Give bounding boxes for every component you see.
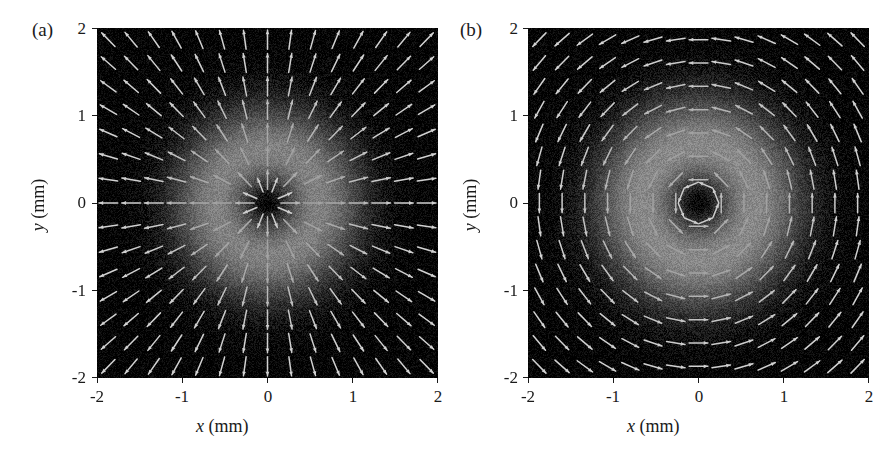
panel-b-ytick-mark — [523, 115, 528, 116]
panel-b-ytick-m2: -2 — [484, 369, 518, 386]
panel-b-y-axis-title: y (mm) — [461, 155, 479, 255]
panel-a-xtick-mark — [352, 378, 353, 383]
panel-b-xtick-mark — [868, 378, 869, 383]
panel-b-xtick-mark — [528, 378, 529, 383]
figure-root: (a) 2 1 0 -1 -2 -2 -1 0 1 2 x (mm) y (mm… — [0, 0, 896, 455]
panel-b-ytick-mark — [523, 290, 528, 291]
panel-a-ytick-mark — [92, 377, 97, 378]
panel-a-plot-area — [97, 28, 438, 378]
panel-b-xtick-m1: -1 — [593, 388, 633, 405]
panel-a-ytick-0: 0 — [52, 194, 86, 211]
panel-b-ytick-mark — [523, 203, 528, 204]
panel-b-intensity-vector-map — [528, 28, 869, 378]
panel-b-xtick-mark — [698, 378, 699, 383]
panel-a-tag: (a) — [32, 20, 53, 39]
panel-b-ytick-2: 2 — [484, 20, 518, 37]
panel-b: (b) 2 1 0 -1 -2 -2 -1 0 1 2 x (mm) y (mm… — [448, 0, 896, 455]
panel-a-xtick-0: 0 — [248, 388, 288, 405]
panel-b-ytick-mark — [523, 28, 528, 29]
panel-a-ytick-m2: -2 — [52, 369, 86, 386]
panel-a-y-axis-title: y (mm) — [29, 155, 47, 255]
panel-b-xtick-mark — [783, 378, 784, 383]
panel-a-xtick-mark — [267, 378, 268, 383]
panel-a-x-axis-unit: (mm) — [209, 416, 249, 436]
panel-a-ytick-mark — [92, 115, 97, 116]
panel-a-xtick-mark — [97, 378, 98, 383]
panel-a-xtick-m1: -1 — [162, 388, 202, 405]
panel-b-y-axis-var: y — [460, 223, 480, 231]
panel-a-intensity-vector-map — [97, 28, 438, 378]
panel-a-xtick-mark — [437, 378, 438, 383]
panel-a-y-axis-unit: (mm) — [28, 179, 48, 219]
panel-b-x-axis-unit: (mm) — [640, 416, 680, 436]
panel-a-x-axis-var: x — [196, 416, 204, 436]
panel-b-tag: (b) — [460, 20, 482, 39]
panel-b-ytick-1: 1 — [484, 107, 518, 124]
panel-a-ytick-1: 1 — [52, 107, 86, 124]
panel-a-ytick-2: 2 — [52, 20, 86, 37]
panel-b-y-axis-unit: (mm) — [460, 179, 480, 219]
panel-b-plot-area — [528, 28, 869, 378]
panel-a-y-axis-var: y — [28, 223, 48, 231]
panel-b-xtick-m2: -2 — [508, 388, 548, 405]
panel-a-xtick-mark — [182, 378, 183, 383]
panel-a-xtick-1: 1 — [333, 388, 373, 405]
panel-b-xtick-0: 0 — [679, 388, 719, 405]
panel-a-ytick-m1: -1 — [52, 282, 86, 299]
panel-a-ytick-mark — [92, 203, 97, 204]
panel-b-x-axis-var: x — [627, 416, 635, 436]
panel-a-ytick-mark — [92, 290, 97, 291]
panel-b-ytick-mark — [523, 377, 528, 378]
panel-b-xtick-mark — [613, 378, 614, 383]
panel-b-ytick-0: 0 — [484, 194, 518, 211]
panel-b-ytick-m1: -1 — [484, 282, 518, 299]
panel-b-x-axis-title: x (mm) — [627, 417, 680, 435]
panel-b-xtick-1: 1 — [764, 388, 804, 405]
panel-b-xtick-2: 2 — [849, 388, 889, 405]
panel-a: (a) 2 1 0 -1 -2 -2 -1 0 1 2 x (mm) y (mm… — [0, 0, 448, 455]
panel-a-xtick-m2: -2 — [77, 388, 117, 405]
panel-a-ytick-mark — [92, 28, 97, 29]
panel-a-x-axis-title: x (mm) — [196, 417, 249, 435]
